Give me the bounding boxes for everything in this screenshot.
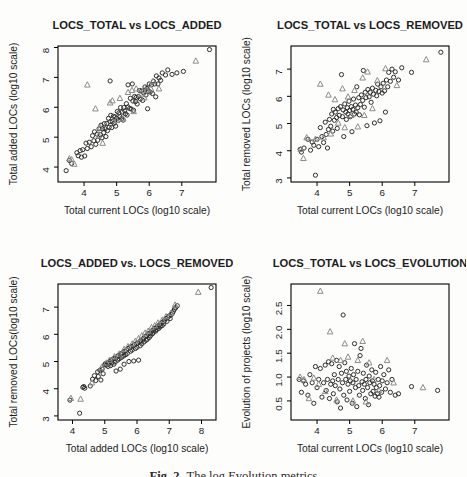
point-triangle-icon [350,398,356,403]
point-triangle-icon [133,86,139,91]
point-circle-icon [344,369,348,373]
point-circle-icon [353,103,357,107]
x-tick-label: 8 [199,425,205,436]
plot-svg: LOCS_TOTAL vs LOCS_EVOLUTIONTotal curren… [233,238,466,476]
point-circle-icon [361,371,365,375]
point-triangle-icon [423,57,429,62]
point-triangle-icon [342,125,348,130]
point-circle-icon [321,140,325,144]
x-axis-label: Total current LOCs (log10 scale) [297,443,443,454]
point-circle-icon [329,124,333,128]
point-circle-icon [338,406,342,410]
point-circle-icon [108,79,112,83]
point-circle-icon [392,75,396,79]
point-triangle-icon [117,95,123,100]
y-axis-label: Evolution of projects (log10 scale) [241,276,252,429]
point-circle-icon [351,97,355,101]
plot-title: LOCS_TOTAL vs LOCS_REMOVED [277,19,463,31]
point-circle-icon [99,378,103,382]
point-circle-icon [341,313,345,317]
point-circle-icon [349,366,353,370]
point-circle-icon [318,126,322,130]
point-triangle-icon [345,94,351,99]
x-tick-label: 6 [379,187,385,198]
y-axis-label: Total removed LOCs(log10 scale) [8,276,19,427]
y-tick-label: 8 [40,47,51,53]
point-triangle-icon [391,380,397,385]
point-circle-icon [367,374,371,378]
point-circle-icon [370,368,374,372]
point-circle-icon [327,396,331,400]
point-circle-icon [331,379,335,383]
point-triangle-icon [361,112,367,117]
point-circle-icon [336,377,340,381]
point-circle-icon [89,145,93,149]
point-circle-icon [325,377,329,381]
y-tick-label: 3 [40,416,51,422]
point-circle-icon [104,134,108,138]
point-circle-icon [361,68,365,72]
point-triangle-icon [420,384,426,389]
point-circle-icon [130,82,134,86]
point-triangle-icon [360,75,366,80]
y-tick-label: 7 [40,78,51,83]
x-tick-label: 7 [412,425,417,436]
point-triangle-icon [340,86,346,91]
point-circle-icon [308,148,312,152]
x-tick-label: 5 [347,425,353,436]
point-circle-icon [163,73,167,77]
x-tick-label: 6 [146,187,152,198]
point-circle-icon [313,173,317,177]
point-triangle-icon [330,355,336,360]
point-circle-icon [137,358,141,362]
point-circle-icon [345,398,349,402]
point-triangle-icon [318,81,324,86]
y-tick-label: 2.0 [273,325,284,339]
point-circle-icon [81,148,85,152]
plot-svg: LOCS_TOTAL vs LOCS_ADDEDTotal current LO… [0,0,233,238]
point-circle-icon [325,146,329,150]
point-circle-icon [383,387,387,391]
point-circle-icon [299,390,303,394]
point-circle-icon [323,120,327,124]
y-tick-label: 5 [273,123,284,129]
point-circle-icon [339,371,343,375]
point-circle-icon [366,87,370,91]
point-circle-icon [342,134,346,138]
point-circle-icon [126,83,130,87]
caption-text: The log Evolution metrics [187,469,318,477]
point-triangle-icon [195,289,201,294]
point-triangle-icon [327,329,333,334]
point-circle-icon [357,384,361,388]
point-circle-icon [78,149,82,153]
point-circle-icon [358,102,362,106]
point-triangle-icon [193,58,199,63]
point-circle-icon [320,395,324,399]
point-circle-icon [435,388,439,392]
point-circle-icon [378,119,382,123]
x-tick-label: 4 [70,425,76,436]
point-circle-icon [308,373,312,377]
plot-title: LOCS_TOTAL vs LOCS_ADDED [52,19,221,31]
point-circle-icon [127,359,131,363]
y-tick-label: 4 [40,167,51,173]
figure-caption: Fig. 2.The log Evolution metrics [0,469,467,477]
plot-svg: LOCS_ADDED vs. LOCS_REMOVEDTotal added L… [0,238,233,476]
point-circle-icon [109,113,113,117]
point-circle-icon [122,362,126,366]
plot-title: LOCS_TOTAL vs LOCS_EVOLUTION [273,257,466,269]
point-circle-icon [372,121,376,125]
scatter-panel-locs-added-vs-locs-removed: LOCS_ADDED vs. LOCS_REMOVEDTotal added L… [0,238,233,476]
point-triangle-icon [85,82,91,87]
point-triangle-icon [297,374,303,379]
x-axis-label: Total added LOCs (log10 scale) [66,443,209,454]
y-tick-label: 2.5 [273,301,284,315]
point-circle-icon [439,50,443,54]
point-circle-icon [94,142,98,146]
x-tick-label: 7 [412,187,417,198]
y-tick-label: 5 [40,137,51,143]
point-triangle-icon [342,341,348,346]
x-tick-label: 5 [114,187,120,198]
x-tick-label: 5 [347,187,353,198]
point-circle-icon [78,411,82,415]
